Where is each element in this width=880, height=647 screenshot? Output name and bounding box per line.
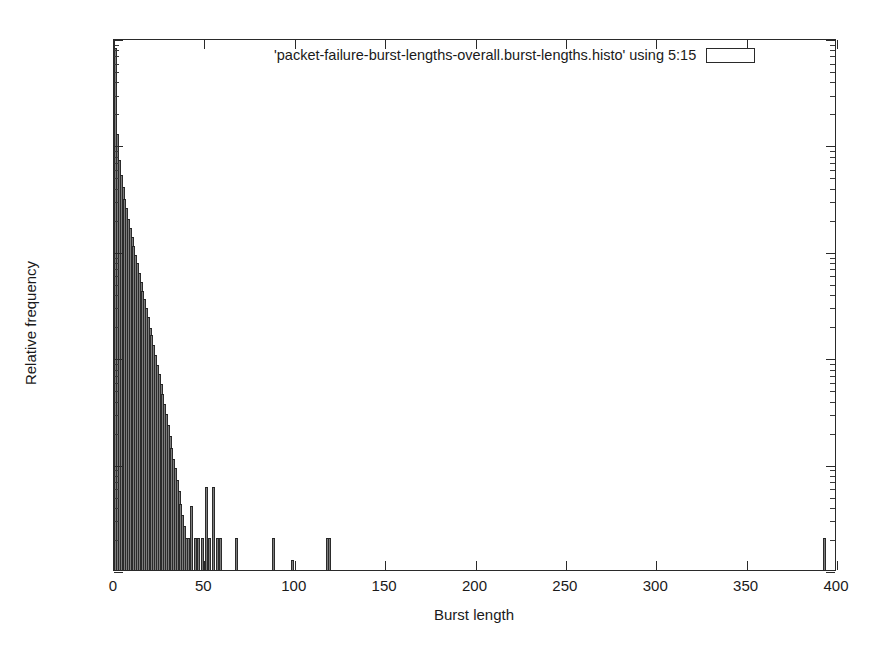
y-axis-minor-tick <box>114 276 119 277</box>
y-axis-minor-tick <box>830 327 835 328</box>
x-axis-tick <box>566 561 567 570</box>
y-axis-minor-tick <box>114 498 119 499</box>
bar <box>205 487 208 570</box>
bar <box>212 487 215 570</box>
y-axis-minor-tick <box>830 157 835 158</box>
bar <box>272 538 275 570</box>
y-axis-minor-tick <box>114 383 119 384</box>
y-axis-minor-tick <box>830 364 835 365</box>
bar <box>208 538 211 570</box>
y-axis-tick <box>114 466 123 467</box>
y-axis-minor-tick <box>830 269 835 270</box>
y-axis-minor-tick <box>114 308 119 309</box>
y-axis-tick <box>826 146 835 147</box>
y-axis-minor-tick <box>830 285 835 286</box>
y-axis-minor-tick <box>114 64 119 65</box>
y-axis-minor-tick <box>830 489 835 490</box>
x-axis-tick-label: 50 <box>195 578 212 593</box>
bar <box>235 538 238 570</box>
y-axis-minor-tick <box>830 276 835 277</box>
x-axis-tick-label: 300 <box>643 578 668 593</box>
y-axis-minor-tick <box>830 82 835 83</box>
y-axis-tick <box>114 572 123 573</box>
y-axis-minor-tick <box>830 96 835 97</box>
y-axis-tick <box>826 253 835 254</box>
bar <box>187 538 190 570</box>
y-axis-tick <box>114 146 123 147</box>
y-axis-minor-tick <box>830 178 835 179</box>
y-axis-minor-tick <box>830 476 835 477</box>
y-axis-minor-tick <box>830 295 835 296</box>
y-axis-minor-tick <box>114 263 119 264</box>
y-axis-minor-tick <box>830 383 835 384</box>
x-axis-tick-label: 150 <box>372 578 397 593</box>
empty-box-icon <box>706 48 755 63</box>
x-axis-tick <box>747 561 748 570</box>
x-axis-tick <box>295 561 296 570</box>
x-axis-tick <box>476 561 477 570</box>
y-axis-minor-tick <box>830 64 835 65</box>
y-axis-minor-tick <box>830 72 835 73</box>
y-axis-minor-tick <box>830 45 835 46</box>
x-axis-tick <box>114 40 115 49</box>
y-axis-tick <box>114 253 123 254</box>
y-axis-minor-tick <box>114 50 119 51</box>
y-axis-minor-tick <box>114 178 119 179</box>
y-axis-minor-tick <box>114 269 119 270</box>
y-axis-minor-tick <box>114 476 119 477</box>
x-axis-tick <box>114 561 115 570</box>
x-axis-tick-label: 200 <box>462 578 487 593</box>
y-axis-minor-tick <box>830 50 835 51</box>
x-axis-tick <box>656 561 657 570</box>
y-axis-minor-tick <box>114 391 119 392</box>
bar <box>823 538 826 570</box>
y-axis-minor-tick <box>830 470 835 471</box>
y-axis-minor-tick <box>830 263 835 264</box>
y-axis-minor-tick <box>114 189 119 190</box>
y-axis-tick <box>826 466 835 467</box>
y-axis-minor-tick <box>114 285 119 286</box>
y-axis-minor-tick <box>114 508 119 509</box>
y-axis-minor-tick <box>830 151 835 152</box>
y-axis-minor-tick <box>114 327 119 328</box>
bar <box>216 538 219 570</box>
y-axis-minor-tick <box>830 370 835 371</box>
x-axis-tick-label: 250 <box>552 578 577 593</box>
y-axis-minor-tick <box>114 72 119 73</box>
y-axis-minor-tick <box>114 170 119 171</box>
y-axis-minor-tick <box>114 258 119 259</box>
x-axis-tick <box>837 40 838 49</box>
x-axis-tick <box>204 561 205 570</box>
y-axis-minor-tick <box>830 114 835 115</box>
y-axis-minor-tick <box>830 521 835 522</box>
y-axis-minor-tick <box>114 157 119 158</box>
y-axis-minor-tick <box>830 170 835 171</box>
y-axis-tick <box>826 40 835 41</box>
y-axis-minor-tick <box>114 521 119 522</box>
y-axis-minor-tick <box>830 402 835 403</box>
bar <box>197 538 200 570</box>
y-axis-tick <box>114 40 123 41</box>
y-axis-minor-tick <box>830 376 835 377</box>
y-axis-minor-tick <box>830 308 835 309</box>
y-axis-minor-tick <box>114 364 119 365</box>
legend: 'packet-failure-burst-lengths-overall.bu… <box>274 47 755 63</box>
y-axis-minor-tick <box>830 391 835 392</box>
y-axis-minor-tick <box>114 96 119 97</box>
y-axis-title: Relative frequency <box>22 261 39 385</box>
x-axis-tick-label: 100 <box>281 578 306 593</box>
y-axis-tick <box>114 359 123 360</box>
y-axis-tick <box>826 572 835 573</box>
y-axis-minor-tick <box>830 221 835 222</box>
y-axis-minor-tick <box>114 489 119 490</box>
bar <box>219 538 222 570</box>
x-axis-tick-label: 400 <box>823 578 848 593</box>
y-axis-minor-tick <box>114 470 119 471</box>
y-axis-minor-tick <box>114 434 119 435</box>
y-axis-minor-tick <box>114 295 119 296</box>
y-axis-minor-tick <box>830 163 835 164</box>
bar <box>190 506 193 570</box>
y-axis-minor-tick <box>114 82 119 83</box>
y-axis-minor-tick <box>830 202 835 203</box>
y-axis-minor-tick <box>114 221 119 222</box>
